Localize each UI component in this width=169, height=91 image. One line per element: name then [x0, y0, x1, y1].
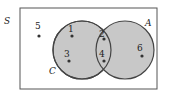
- point-3-label: 3: [64, 49, 70, 59]
- universe-label: S: [4, 16, 10, 26]
- point-1-dot: [70, 34, 73, 37]
- point-4-dot: [102, 59, 105, 62]
- point-6-label: 6: [137, 43, 143, 53]
- venn-diagram: S C A 5 1 3 2 4 6: [0, 0, 169, 91]
- point-6-dot: [140, 54, 143, 57]
- point-2: 2: [99, 29, 106, 41]
- point-3-dot: [67, 59, 70, 62]
- point-5-label: 5: [35, 21, 41, 31]
- set-c-label: C: [49, 66, 56, 76]
- point-2-dot: [102, 37, 105, 40]
- point-5-dot: [37, 34, 40, 37]
- set-a-label: A: [144, 18, 152, 28]
- point-4-label: 4: [99, 49, 105, 59]
- point-1-label: 1: [68, 24, 74, 34]
